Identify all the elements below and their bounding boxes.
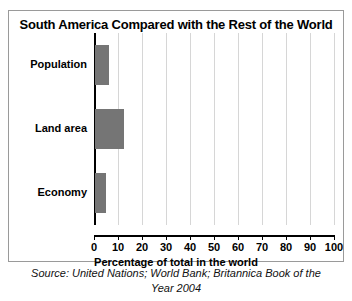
x-tick	[238, 235, 239, 240]
gridline	[166, 33, 167, 225]
gridline	[214, 33, 215, 225]
bar	[95, 173, 106, 213]
category-label-wrap: Economy	[9, 186, 87, 200]
category-label-wrap: Population	[9, 58, 87, 72]
plot-area	[94, 33, 334, 225]
gridline	[142, 33, 143, 225]
x-tick	[214, 235, 215, 240]
x-tick	[94, 235, 95, 240]
source-line-2: Year 2004	[14, 281, 338, 296]
gridline	[190, 33, 191, 225]
category-label-wrap: Land area	[9, 122, 87, 136]
gridline	[238, 33, 239, 225]
chart-page: South America Compared with the Rest of …	[0, 0, 352, 301]
gridline	[310, 33, 311, 225]
x-tick	[310, 235, 311, 240]
source-line-1: Source: United Nations; World Bank; Brit…	[14, 266, 338, 281]
x-tick-label: 100	[314, 241, 352, 253]
x-tick	[142, 235, 143, 240]
gridline	[334, 33, 335, 225]
bar	[95, 45, 109, 85]
bar	[95, 109, 124, 149]
x-tick	[334, 235, 335, 240]
x-tick	[118, 235, 119, 240]
x-tick	[286, 235, 287, 240]
gridline	[262, 33, 263, 225]
x-tick	[190, 235, 191, 240]
chart-frame: South America Compared with the Rest of …	[8, 10, 344, 262]
category-label: Economy	[0, 186, 87, 198]
chart-title: South America Compared with the Rest of …	[9, 17, 343, 32]
source-caption: Source: United Nations; World Bank; Brit…	[14, 266, 338, 296]
x-tick	[262, 235, 263, 240]
x-tick	[166, 235, 167, 240]
gridline	[286, 33, 287, 225]
category-label: Land area	[0, 122, 87, 134]
category-label: Population	[0, 58, 87, 70]
